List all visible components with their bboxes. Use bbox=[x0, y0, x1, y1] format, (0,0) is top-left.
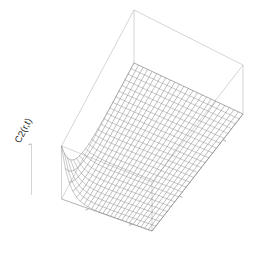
box-edge bbox=[62, 10, 135, 146]
box-edge bbox=[134, 10, 243, 65]
surface-plot-figure: C2(r,t) bbox=[0, 0, 258, 262]
mesh-line bbox=[98, 129, 198, 172]
x-tick-1 bbox=[129, 224, 132, 226]
mesh-line bbox=[73, 69, 148, 191]
mesh-line bbox=[141, 108, 230, 227]
mesh-line bbox=[77, 158, 171, 206]
z-tick-0 bbox=[29, 144, 32, 145]
surface-plot-canvas: C2(r,t) bbox=[0, 0, 258, 262]
z-axis-label: C2(r,t) bbox=[12, 116, 34, 145]
y-tick-0 bbox=[179, 196, 182, 197]
mesh-line bbox=[114, 93, 197, 218]
mesh-line bbox=[118, 95, 202, 219]
mesh-line bbox=[137, 106, 225, 226]
y-tick-1 bbox=[223, 140, 226, 141]
mesh-line bbox=[133, 103, 220, 224]
box-edge bbox=[62, 199, 153, 231]
wireframe-mesh bbox=[62, 63, 244, 231]
x-tick-0 bbox=[85, 209, 88, 211]
